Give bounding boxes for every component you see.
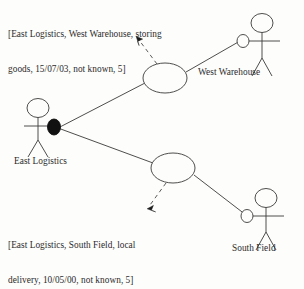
- actor-head-icon-south-field: [255, 189, 277, 208]
- actor-leg-left-east-logistics: [28, 140, 38, 157]
- note-delivery: [East Logistics, South Field, local deli…: [8, 217, 135, 289]
- annotation-dashed-line-delivery: [150, 183, 166, 205]
- note-storing: [East Logistics, West Warehouse, storing…: [8, 6, 162, 98]
- actor-head-icon-west-warehouse: [251, 14, 273, 33]
- actor-label-south-field: South Field: [232, 243, 276, 254]
- use-case-ellipse-lower[interactable]: [151, 153, 195, 183]
- connector-hollow-ellipse-south-field: [241, 210, 253, 223]
- arrowhead-icon-delivery: [147, 205, 155, 212]
- actor-leg-right-west-warehouse: [262, 58, 272, 76]
- actor-south-field[interactable]: [241, 189, 284, 251]
- actor-label-east-logistics: East Logistics: [14, 156, 67, 167]
- annotation-link-delivery: [147, 183, 166, 212]
- actor-label-west-warehouse: West Warehouse: [198, 67, 260, 78]
- note-storing-line1: [East Logistics, West Warehouse, storing: [8, 29, 162, 41]
- association-segment-right-lower: [194, 175, 246, 215]
- connector-hollow-ellipse-west-warehouse: [237, 35, 249, 48]
- note-delivery-line1: [East Logistics, South Field, local: [8, 240, 135, 252]
- connector-filled-ellipse-east-logistics: [48, 119, 61, 135]
- actor-leg-right-east-logistics: [38, 140, 48, 157]
- note-storing-line2: goods, 15/07/03, not known, 5]: [8, 64, 162, 76]
- note-delivery-line2: delivery, 10/05/00, not known, 5]: [8, 275, 135, 287]
- association-segment-left-lower: [58, 128, 153, 163]
- actor-head-icon-east-logistics: [27, 99, 49, 118]
- actor-east-logistics[interactable]: [24, 99, 61, 158]
